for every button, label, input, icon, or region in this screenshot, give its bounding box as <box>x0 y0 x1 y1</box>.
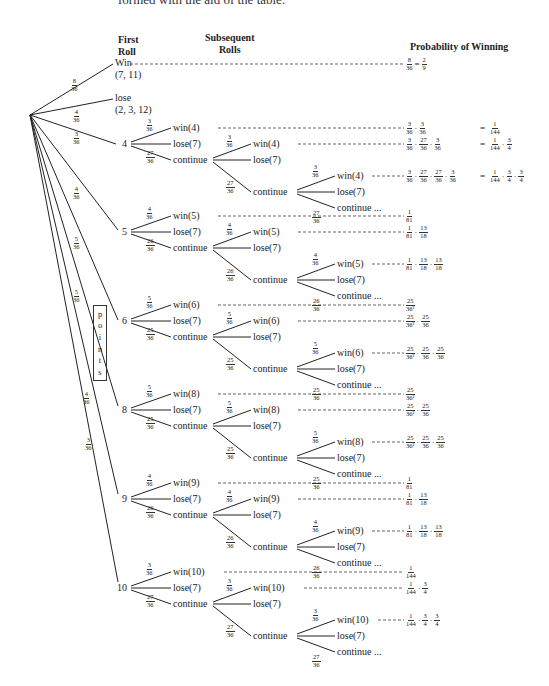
probability-expression: 2536²·2536·2536 <box>406 435 445 449</box>
continue-ellipsis: continue ... <box>337 557 381 568</box>
continue-l2: continue <box>253 363 287 374</box>
probability-expression: 2536²·2536·2536 <box>406 346 445 360</box>
win-l1: win(5) <box>173 210 200 221</box>
prob-win-first: 836 <box>71 78 78 92</box>
prob-cont-l2: 2736 <box>226 624 235 638</box>
lose-l1: lose(7) <box>173 226 201 237</box>
fraction: 2536² <box>406 298 415 312</box>
prob-point-6: 536 <box>73 236 80 250</box>
fraction: 2536² <box>406 435 415 449</box>
lose-l3: lose(7) <box>337 363 365 374</box>
lose-l3: lose(7) <box>337 630 365 641</box>
fraction: 34 <box>422 581 427 595</box>
probability-simplified: =1144·34 <box>480 137 512 151</box>
prob-cont-l3: 2536 <box>312 387 321 401</box>
branch-line <box>297 549 335 563</box>
fraction: 2536² <box>406 314 415 328</box>
branch-line <box>297 194 335 208</box>
fraction: 336 <box>406 121 413 135</box>
probability-expression: 336·2736·2736·336 <box>406 169 456 183</box>
prob-cont-l1: 2636 <box>146 505 155 519</box>
continue-l2: continue <box>253 274 287 285</box>
lose-l2: lose(7) <box>253 242 281 253</box>
win-l1: win(9) <box>173 477 200 488</box>
lose-l2: lose(7) <box>253 509 281 520</box>
prob-win-l1: 336 <box>146 118 153 132</box>
prob-cont-l2: 2536 <box>226 357 235 371</box>
prob-point-10: 336 <box>85 437 92 451</box>
fraction: 34 <box>507 169 512 183</box>
branch-line <box>297 264 335 278</box>
prob-win-l3: 436 <box>312 519 319 533</box>
lose-l3: lose(7) <box>337 541 365 552</box>
fraction: 836 <box>406 57 413 71</box>
win-l3: win(4) <box>337 170 364 181</box>
probability-simplified: =1144·34·34 <box>480 169 524 183</box>
win-l1: win(6) <box>173 299 200 310</box>
fraction: 2536² <box>406 346 415 360</box>
continue-l1: continue <box>173 331 207 342</box>
lose-l3: lose(7) <box>337 274 365 285</box>
fraction: 1144 <box>490 169 500 183</box>
prob-win-l2: 436 <box>226 222 233 236</box>
win-l3: win(5) <box>337 258 364 269</box>
win-l2: win(9) <box>253 493 280 504</box>
probability-expression: 1144·34·34 <box>406 613 440 627</box>
prob-win-l3: 536 <box>312 341 319 355</box>
fraction: 1144 <box>406 565 416 579</box>
fraction: 1318 <box>419 225 428 239</box>
lose-l3: lose(7) <box>337 452 365 463</box>
fraction: 1144 <box>406 581 416 595</box>
prob-win-l3: 536 <box>312 430 319 444</box>
points-letter: s <box>98 367 101 377</box>
fraction: 34 <box>507 137 512 151</box>
win-l3: win(10) <box>337 614 369 625</box>
prob-win-l2: 536 <box>226 400 233 414</box>
prob-cont-l1: 2736 <box>146 150 155 164</box>
lose-l1: lose(7) <box>173 315 201 326</box>
lose-l2: lose(7) <box>253 420 281 431</box>
fraction: 1318 <box>434 524 443 538</box>
prob-win-l2: 336 <box>226 134 233 148</box>
prob-win-l2: 336 <box>226 578 233 592</box>
probability-expression: 1144 <box>406 565 416 579</box>
probability-expression: 2536² <box>406 387 415 401</box>
fraction: 29 <box>422 57 427 71</box>
continue-l2: continue <box>253 186 287 197</box>
point-8-label: 8 <box>122 404 127 415</box>
prob-win-l1: 436 <box>146 473 153 487</box>
fraction: 2536² <box>406 387 415 401</box>
fraction: 181 <box>406 492 413 506</box>
continue-l1: continue <box>173 154 207 165</box>
branch-line <box>297 620 335 634</box>
fraction: 336 <box>419 121 426 135</box>
prob-cont-l3: 2736 <box>312 654 321 668</box>
fraction: 1318 <box>434 257 443 271</box>
continue-ellipsis: continue ... <box>337 646 381 657</box>
continue-l1: continue <box>173 242 207 253</box>
fraction: 1144 <box>490 137 500 151</box>
probability-expression: 181·1318 <box>406 225 428 239</box>
continue-l2: continue <box>253 541 287 552</box>
fraction: 1144 <box>490 121 500 135</box>
points-letter: i <box>99 332 101 342</box>
first-roll-win: Win <box>115 57 132 68</box>
fraction: 1144 <box>406 613 416 627</box>
prob-point-4: 336 <box>73 131 80 145</box>
prob-cont-l3: 2536 <box>312 476 321 490</box>
prob-cont-l3: 2736 <box>312 210 321 224</box>
prob-cont-l3: 2636 <box>312 298 321 312</box>
fraction: 181 <box>406 257 413 271</box>
branch-line <box>297 371 335 385</box>
prob-point-9: 436 <box>83 391 90 405</box>
probability-expression: 181·1318·1318 <box>406 257 443 271</box>
lose-l1: lose(7) <box>173 138 201 149</box>
branch-line <box>297 531 335 545</box>
point-5-label: 5 <box>122 226 127 237</box>
win-l1: win(4) <box>173 122 200 133</box>
probability-expression: 2536² <box>406 298 415 312</box>
branch-line <box>297 638 335 652</box>
prob-win-l1: 436 <box>146 206 153 220</box>
prob-win-l2: 436 <box>226 489 233 503</box>
point-10-label: 10 <box>117 582 127 593</box>
